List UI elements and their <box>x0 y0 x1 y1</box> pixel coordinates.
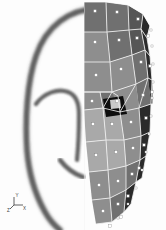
axis-triad-group: YXZ <box>7 193 26 213</box>
axis-label: Z <box>7 208 10 213</box>
coordinate-axis-triad: YXZ <box>0 0 166 230</box>
axis-line <box>10 205 14 209</box>
axis-label: X <box>23 206 26 211</box>
figure-canvas: YXZ <box>0 0 166 230</box>
axis-label: Y <box>16 193 19 198</box>
